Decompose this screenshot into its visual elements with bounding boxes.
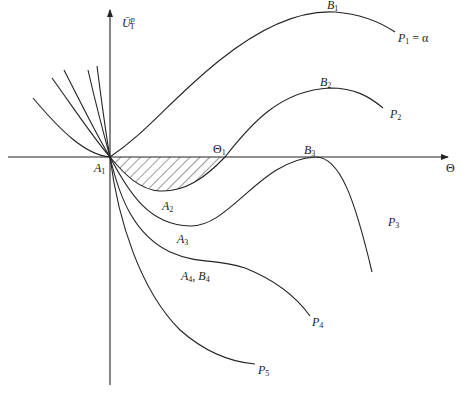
x-axis-label: Θ: [446, 162, 455, 174]
label-p5: P5: [258, 364, 269, 378]
label-b3: B3: [304, 144, 315, 158]
label-a4-b4: A4, B4: [181, 270, 210, 284]
curve-p1: [110, 12, 395, 157]
label-p1: P1 = α: [398, 32, 428, 46]
label-p2: P2: [390, 108, 401, 122]
label-a2: A2: [162, 200, 173, 214]
label-b2: B2: [320, 76, 331, 90]
origin-label-a1: A1: [94, 162, 105, 176]
label-p4: P4: [312, 316, 323, 330]
label-a3: A3: [177, 233, 188, 247]
label-b1: B1: [327, 0, 338, 13]
y-axis-label: ŪpT: [122, 16, 135, 31]
phase-diagram: [0, 0, 469, 396]
label-theta1: Θ1: [213, 143, 226, 157]
left-branch-parabola: [33, 98, 110, 157]
label-p3: P3: [388, 216, 399, 230]
